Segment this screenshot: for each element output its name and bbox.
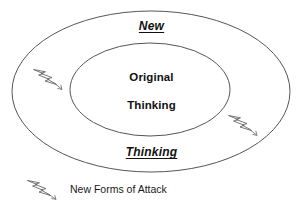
attack-bolt-right <box>229 116 257 136</box>
outer-ring-label-top: New <box>0 20 303 32</box>
inner-ring-label-line-1: Original <box>0 72 303 84</box>
inner-ring-label-line-2: Thinking <box>0 100 303 112</box>
diagram-root: New Thinking Original Thinking New Forms… <box>0 0 303 205</box>
legend-label: New Forms of Attack <box>64 184 167 195</box>
lightning-bolt-icon <box>26 178 58 200</box>
inner-ellipse <box>70 43 230 136</box>
legend: New Forms of Attack <box>26 178 167 200</box>
outer-ring-label-bottom: Thinking <box>0 146 303 158</box>
